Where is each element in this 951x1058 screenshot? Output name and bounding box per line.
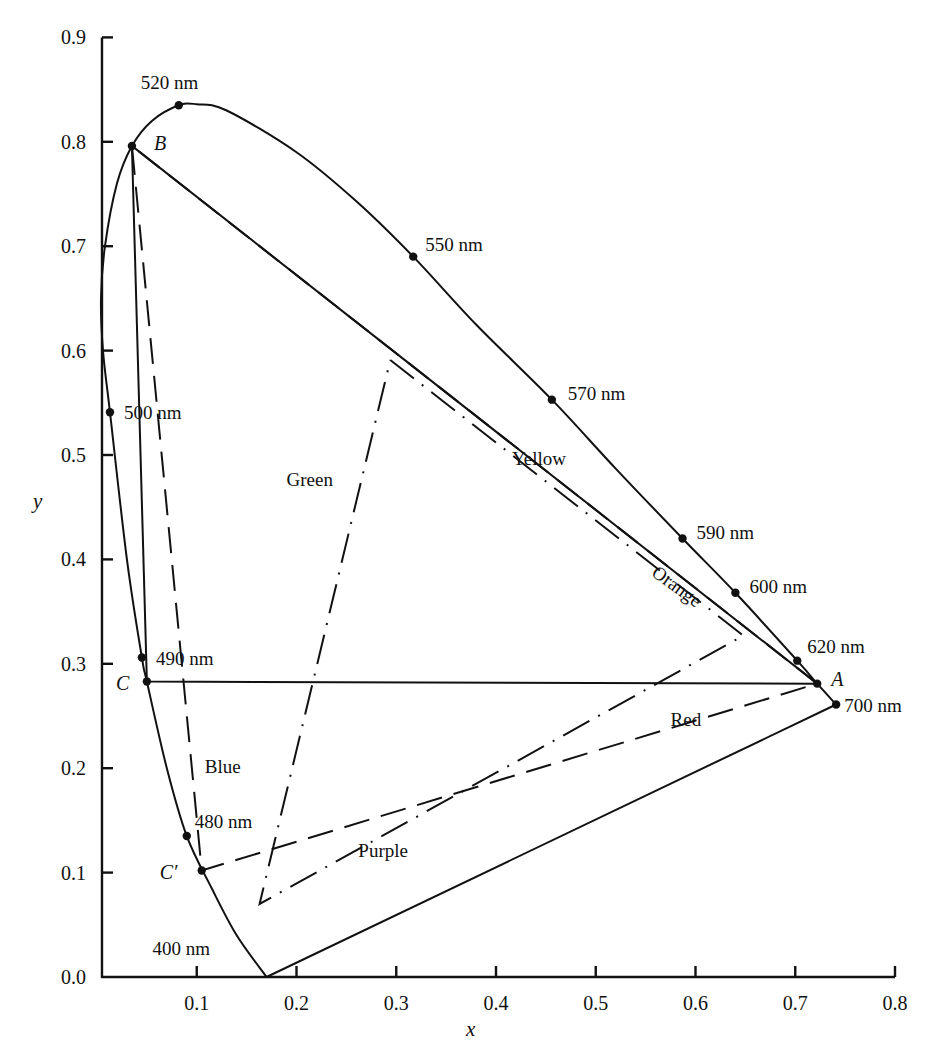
y-tick-label: 0.7 (61, 235, 86, 257)
point-label: A (829, 668, 844, 690)
x-tick-label: 0.5 (583, 992, 608, 1014)
region-label-red: Red (671, 709, 702, 730)
y-tick-label: 0.9 (61, 26, 86, 48)
wavelength-label: 500 nm (124, 402, 182, 423)
wavelength-dot (106, 408, 114, 416)
y-tick-label: 0.0 (61, 966, 86, 988)
wavelength-label: 700 nm (844, 695, 902, 716)
point-label: B (154, 132, 166, 154)
y-tick-label: 0.5 (61, 444, 86, 466)
point-C (143, 677, 151, 685)
region-label-green: Green (287, 469, 334, 490)
wavelength-dot (678, 534, 686, 542)
x-tick-label: 0.7 (783, 992, 808, 1014)
axes (102, 37, 895, 977)
wavelength-label: 480 nm (195, 811, 253, 832)
region-label-yellow: Yellow (512, 448, 566, 469)
axis-lines (102, 37, 895, 977)
wavelength-dot (138, 653, 146, 661)
wavelength-dot (409, 252, 417, 260)
y-tick-label: 0.2 (61, 757, 86, 779)
point-C-prime (198, 866, 206, 874)
wavelength-markers: 520 nm550 nm570 nm590 nm600 nm620 nm700 … (106, 72, 902, 959)
wavelength-dot (793, 656, 801, 664)
y-tick-label: 0.1 (61, 862, 86, 884)
x-axis-label: x (465, 1017, 476, 1041)
region-label-blue: Blue (205, 756, 241, 777)
wavelength-label: 490 nm (156, 648, 214, 669)
point-label: C′ (160, 861, 178, 883)
wavelength-label: 590 nm (697, 522, 755, 543)
point-label: C (116, 672, 130, 694)
line-of-purples (267, 705, 837, 977)
point-A (813, 679, 821, 687)
y-tick-label: 0.6 (61, 340, 86, 362)
cie-chromaticity-chart: 0.00.10.20.30.40.50.60.70.80.90.10.20.30… (0, 0, 951, 1058)
x-tick-label: 0.8 (883, 992, 908, 1014)
x-tick-label: 0.6 (683, 992, 708, 1014)
point-B (128, 142, 136, 150)
y-tick-label: 0.8 (61, 131, 86, 153)
wavelength-label: 620 nm (807, 636, 865, 657)
wavelength-dot (548, 395, 556, 403)
wavelength-label: 520 nm (141, 72, 199, 93)
wavelength-label: 400 nm (153, 938, 211, 959)
y-tick-label: 0.3 (61, 653, 86, 675)
region-labels: GreenYellowOrangeRedBluePurple (205, 448, 706, 861)
axis-ticks: 0.00.10.20.30.40.50.60.70.80.90.10.20.30… (61, 26, 908, 1014)
region-label-orange: Orange (648, 561, 706, 611)
x-tick-label: 0.4 (484, 992, 509, 1014)
wavelength-dot (731, 589, 739, 597)
y-axis-label: y (31, 489, 43, 513)
triangle-dash-dot (260, 360, 744, 904)
wavelength-label: 570 nm (568, 383, 626, 404)
wavelength-dot (832, 700, 840, 708)
wavelength-label: 550 nm (425, 234, 483, 255)
region-label-purple: Purple (358, 840, 408, 861)
x-tick-label: 0.2 (284, 992, 309, 1014)
wavelength-dot (175, 101, 183, 109)
wavelength-dot (183, 832, 191, 840)
x-tick-label: 0.3 (384, 992, 409, 1014)
wavelength-label: 600 nm (749, 576, 807, 597)
x-tick-label: 0.1 (184, 992, 209, 1014)
y-tick-label: 0.4 (61, 548, 86, 570)
